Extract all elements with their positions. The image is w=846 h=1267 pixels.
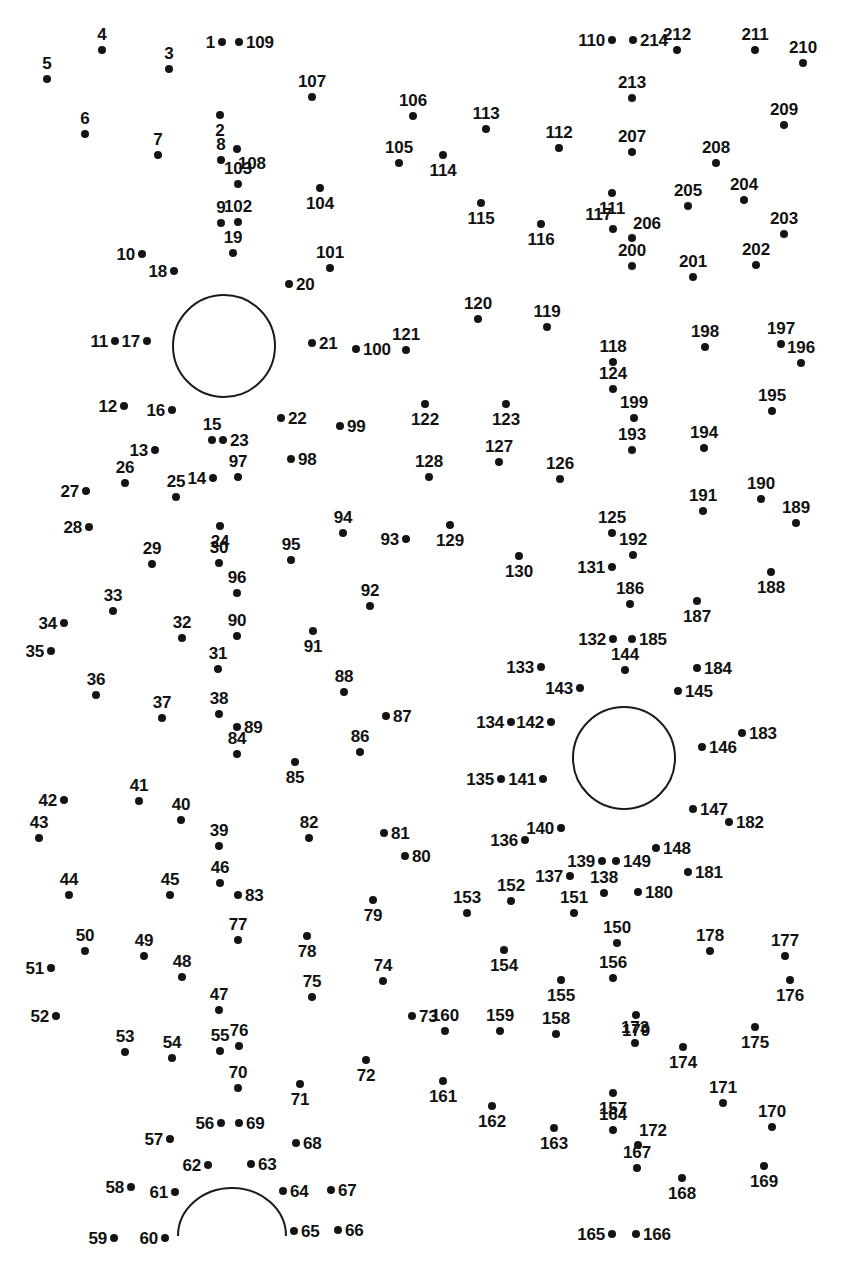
- dot-number-label: 105: [385, 139, 413, 156]
- dot-marker: [752, 261, 760, 269]
- dot-number-label: 213: [618, 74, 646, 91]
- dot-number-label: 131: [577, 559, 605, 576]
- dot-marker: [557, 976, 565, 984]
- dot-marker: [474, 315, 482, 323]
- dot-marker: [628, 446, 636, 454]
- dot-number-label: 118: [600, 338, 627, 355]
- dot-number-label: 176: [776, 987, 804, 1004]
- dot-number-label: 186: [616, 580, 644, 597]
- dot-number-label: 165: [577, 1226, 605, 1243]
- dot-marker: [215, 559, 223, 567]
- dot-marker: [290, 1227, 298, 1235]
- dot-number-label: 206: [633, 215, 661, 232]
- dot-marker: [285, 280, 293, 288]
- dot-number-label: 120: [464, 295, 492, 312]
- dot-marker: [628, 148, 636, 156]
- dot-number-label: 47: [210, 986, 229, 1003]
- dot-number-label: 95: [282, 536, 301, 553]
- dot-marker: [497, 775, 505, 783]
- dot-marker: [165, 65, 173, 73]
- dot-number-label: 164: [599, 1106, 627, 1123]
- dot-marker: [82, 487, 90, 495]
- dot-marker: [140, 952, 148, 960]
- dot-number-label: 98: [298, 451, 317, 468]
- dot-number-label: 141: [508, 771, 536, 788]
- dot-marker: [235, 1042, 243, 1050]
- dot-number-label: 182: [736, 814, 764, 831]
- dot-marker: [628, 262, 636, 270]
- dot-marker: [161, 1234, 169, 1242]
- dot-marker: [35, 834, 43, 842]
- dot-number-label: 123: [492, 411, 520, 428]
- dot-number-label: 65: [301, 1223, 320, 1240]
- dot-marker: [507, 718, 515, 726]
- dot-number-label: 138: [590, 869, 618, 886]
- dot-marker: [234, 1084, 242, 1092]
- dot-marker: [628, 635, 636, 643]
- dot-number-label: 33: [104, 587, 123, 604]
- dot-marker: [135, 797, 143, 805]
- dot-marker: [380, 829, 388, 837]
- dot-marker: [628, 94, 636, 102]
- dot-marker: [781, 952, 789, 960]
- dot-number-label: 128: [415, 453, 443, 470]
- dot-number-label: 48: [173, 953, 192, 970]
- dot-marker: [555, 144, 563, 152]
- dot-marker: [402, 535, 410, 543]
- dot-marker: [109, 607, 117, 615]
- dot-marker: [537, 220, 545, 228]
- dot-marker: [235, 38, 243, 46]
- dot-number-label: 140: [526, 820, 554, 837]
- dot-number-label: 23: [230, 432, 249, 449]
- dot-number-label: 13: [129, 442, 148, 459]
- dot-marker: [204, 1161, 212, 1169]
- dot-number-label: 72: [357, 1067, 376, 1084]
- dot-number-label: 201: [679, 253, 707, 270]
- dot-marker: [247, 1160, 255, 1168]
- dot-marker: [719, 1099, 727, 1107]
- dot-number-label: 135: [466, 771, 494, 788]
- dot-number-label: 117: [585, 206, 612, 223]
- dot-marker: [216, 522, 224, 530]
- dot-number-label: 189: [782, 499, 810, 516]
- dot-number-label: 209: [770, 101, 798, 118]
- dot-marker: [121, 479, 129, 487]
- dot-number-label: 39: [210, 822, 229, 839]
- dot-marker: [218, 38, 226, 46]
- dot-marker: [401, 852, 409, 860]
- dot-number-label: 50: [76, 927, 95, 944]
- dot-marker: [308, 339, 316, 347]
- dot-marker: [395, 159, 403, 167]
- dot-marker: [556, 475, 564, 483]
- dot-number-label: 170: [758, 1103, 786, 1120]
- dot-marker: [797, 359, 805, 367]
- dot-marker: [43, 75, 51, 83]
- dot-number-label: 116: [528, 231, 555, 248]
- dot-marker: [441, 1027, 449, 1035]
- dot-number-label: 89: [244, 719, 263, 736]
- dot-number-label: 130: [505, 563, 533, 580]
- dot-number-label: 181: [695, 864, 723, 881]
- dot-marker: [495, 458, 503, 466]
- dot-number-label: 197: [767, 320, 795, 337]
- dot-marker: [366, 602, 374, 610]
- dot-marker: [439, 151, 447, 159]
- dot-marker: [552, 1030, 560, 1038]
- dot-marker: [216, 111, 224, 119]
- dot-marker: [421, 400, 429, 408]
- dot-number-label: 53: [116, 1028, 135, 1045]
- dot-marker: [446, 521, 454, 529]
- dot-marker: [217, 219, 225, 227]
- dot-marker: [608, 1230, 616, 1238]
- dot-marker: [303, 932, 311, 940]
- dot-number-label: 110: [578, 32, 605, 49]
- dot-marker: [500, 946, 508, 954]
- dot-number-label: 12: [98, 398, 117, 415]
- dot-number-label: 79: [364, 907, 383, 924]
- dot-marker: [502, 400, 510, 408]
- dot-marker: [630, 414, 638, 422]
- dot-number-label: 61: [149, 1184, 168, 1201]
- dot-marker: [608, 529, 616, 537]
- dot-marker: [613, 939, 621, 947]
- dot-number-label: 8: [216, 136, 225, 153]
